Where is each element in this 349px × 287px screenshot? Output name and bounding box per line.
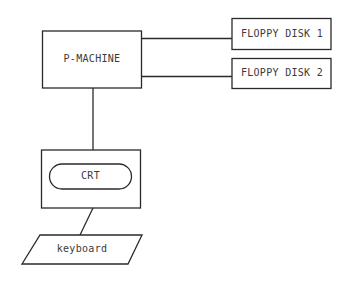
crt-label: CRT	[49, 170, 132, 181]
edge-crt-keyboard	[80, 208, 93, 235]
p-machine-label: P-MACHINE	[42, 53, 142, 64]
floppy-disk-2-label: FLOPPY DISK 2	[232, 67, 332, 78]
floppy-disk-1-label: FLOPPY DISK 1	[232, 28, 332, 39]
keyboard-label: keyboard	[32, 243, 132, 254]
